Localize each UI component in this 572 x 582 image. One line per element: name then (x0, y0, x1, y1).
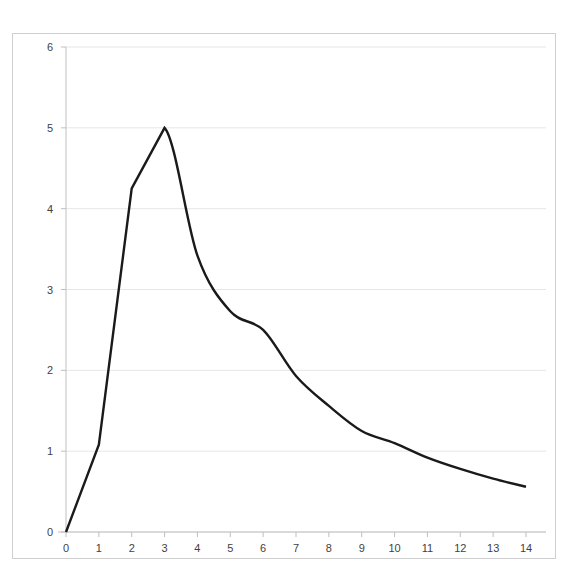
x-tick-label-6: 6 (260, 542, 266, 554)
y-tick-label-6: 6 (47, 41, 53, 53)
y-tick-label-1: 1 (47, 445, 53, 457)
x-tick-label-14: 14 (520, 542, 532, 554)
x-tick-label-2: 2 (129, 542, 135, 554)
x-tick-label-9: 9 (359, 542, 365, 554)
x-tick-label-10: 10 (388, 542, 400, 554)
x-tick-label-3: 3 (162, 542, 168, 554)
y-tick-label-4: 4 (47, 203, 53, 215)
x-tick-label-12: 12 (454, 542, 466, 554)
data-line-series-1 (66, 128, 526, 532)
line-chart-svg: 0123456 01234567891011121314 (13, 34, 557, 560)
data-series (66, 128, 526, 532)
x-tick-label-4: 4 (194, 542, 200, 554)
y-tick-label-3: 3 (47, 284, 53, 296)
plot-area: 0123456 01234567891011121314 (13, 34, 555, 558)
x-axis-ticks: 01234567891011121314 (63, 532, 532, 554)
x-tick-label-8: 8 (326, 542, 332, 554)
chart-figure: 0123456 01234567891011121314 (12, 33, 556, 559)
y-tick-label-5: 5 (47, 122, 53, 134)
x-tick-label-5: 5 (227, 542, 233, 554)
x-tick-label-13: 13 (487, 542, 499, 554)
y-tick-label-2: 2 (47, 364, 53, 376)
x-tick-label-11: 11 (422, 542, 433, 554)
y-axis-ticks: 0123456 (47, 41, 66, 538)
x-tick-label-1: 1 (96, 542, 102, 554)
x-tick-label-7: 7 (293, 542, 299, 554)
gridlines (66, 47, 546, 532)
x-tick-label-0: 0 (63, 542, 69, 554)
y-tick-label-0: 0 (47, 526, 53, 538)
